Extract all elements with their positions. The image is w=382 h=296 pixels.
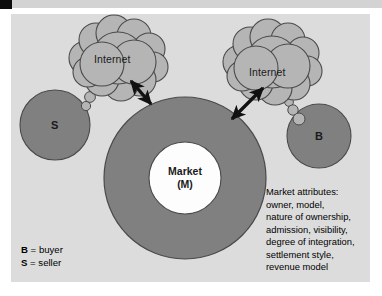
- legend-item-seller: S = seller: [21, 257, 63, 270]
- legend-item-buyer: B = buyer: [21, 244, 63, 257]
- market-attributes-heading: Market attributes:: [266, 186, 355, 199]
- market-attributes-line: settlement style,: [266, 249, 355, 262]
- legend-eq-seller: =: [27, 257, 38, 268]
- buyer-node-label: B: [315, 130, 323, 143]
- legend: B = buyer S = seller: [21, 244, 63, 270]
- market-attributes-line: degree of integration,: [266, 236, 355, 249]
- right-cloud-label: Internet: [249, 66, 285, 78]
- market-attributes-line: nature of ownership,: [266, 211, 355, 224]
- seller-node-label: S: [51, 119, 58, 132]
- diagram-stage: Internet Internet S B Market (M) B = buy…: [0, 0, 382, 296]
- market-attributes-line: revenue model: [266, 261, 355, 274]
- market-attributes-block: Market attributes: owner, model, nature …: [266, 186, 355, 274]
- market-label-line1: Market: [160, 165, 210, 178]
- legend-value-buyer: buyer: [39, 244, 63, 255]
- market-attributes-line: owner, model,: [266, 199, 355, 212]
- market-attributes-line: admission, visibility,: [266, 224, 355, 237]
- market-core-label: Market (M): [160, 165, 210, 191]
- legend-key-buyer: B: [21, 244, 28, 255]
- legend-value-seller: seller: [38, 257, 61, 268]
- left-cloud-label: Internet: [94, 53, 130, 65]
- right-internet-cloud: [223, 19, 322, 105]
- market-label-line2: (M): [160, 178, 210, 191]
- legend-eq-buyer: =: [28, 244, 39, 255]
